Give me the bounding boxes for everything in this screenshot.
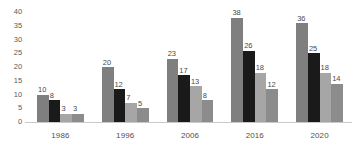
bar-value-label: 14	[332, 75, 340, 83]
bar-slot: 25	[308, 0, 320, 122]
y-axis-tick-10: 10	[0, 91, 22, 99]
bar-group-inner: 10833	[37, 0, 84, 122]
bar-value-label: 13	[191, 78, 199, 86]
bar-slot: 38	[231, 0, 243, 122]
bar-slot: 12	[266, 0, 278, 122]
y-axis-tick-15: 15	[0, 77, 22, 85]
bar-value-label: 3	[73, 105, 77, 113]
bar-slot: 17	[178, 0, 190, 122]
bar-group-1986: 10833	[28, 0, 93, 122]
bar-slot: 10	[37, 0, 49, 122]
bar-series-2-1996[interactable]: 12	[114, 89, 126, 122]
bar-slot: 8	[202, 0, 214, 122]
x-axis-tick-2006: 2006	[158, 128, 223, 144]
bar-series-1-1996[interactable]: 20	[102, 67, 114, 122]
bar-value-label: 26	[244, 42, 252, 50]
bar-value-label: 18	[256, 64, 264, 72]
bar-slot: 13	[190, 0, 202, 122]
x-axis: 19861996200620162020	[28, 128, 352, 144]
bar-value-label: 25	[309, 45, 317, 53]
bar-series-1-2016[interactable]: 38	[231, 18, 243, 123]
bar-series-4-1996[interactable]: 5	[137, 108, 149, 122]
y-axis-tick-5: 5	[0, 104, 22, 112]
bar-group-2006: 2317138	[158, 0, 223, 122]
bar-group-2016: 38261812	[222, 0, 287, 122]
bar-slot: 3	[72, 0, 84, 122]
bar-series-2-2016[interactable]: 26	[243, 51, 255, 123]
bar-series-4-1986[interactable]: 3	[72, 114, 84, 122]
y-axis-tick-35: 35	[0, 22, 22, 30]
x-axis-tick-1986: 1986	[28, 128, 93, 144]
bar-slot: 3	[60, 0, 72, 122]
y-axis-tick-40: 40	[0, 8, 22, 16]
bar-value-label: 12	[115, 81, 123, 89]
bar-value-label: 8	[50, 92, 54, 100]
bar-series-4-2016[interactable]: 12	[266, 89, 278, 122]
bar-group-2020: 36251814	[287, 0, 352, 122]
bar-slot: 20	[102, 0, 114, 122]
bar-value-label: 17	[179, 67, 187, 75]
bar-slot: 26	[243, 0, 255, 122]
bar-value-label: 36	[297, 15, 305, 23]
bar-slot: 36	[296, 0, 308, 122]
bar-series-1-1986[interactable]: 10	[37, 95, 49, 123]
bar-value-label: 23	[168, 50, 176, 58]
bar-series-3-1996[interactable]: 7	[125, 103, 137, 122]
bar-slot: 8	[49, 0, 61, 122]
y-axis: 0510152025303540	[0, 0, 26, 147]
x-axis-tick-1996: 1996	[93, 128, 158, 144]
y-axis-tick-30: 30	[0, 36, 22, 44]
bar-slot: 12	[114, 0, 126, 122]
bar-group-inner: 38261812	[231, 0, 278, 122]
y-axis-tick-0: 0	[0, 118, 22, 126]
bar-slot: 14	[331, 0, 343, 122]
x-axis-line	[25, 122, 352, 123]
bar-value-label: 18	[321, 64, 329, 72]
bar-slot: 18	[320, 0, 332, 122]
bar-slot: 23	[167, 0, 179, 122]
bar-series-2-1986[interactable]: 8	[49, 100, 61, 122]
bar-series-4-2006[interactable]: 8	[202, 100, 214, 122]
bar-slot: 18	[255, 0, 267, 122]
bar-value-label: 38	[232, 9, 240, 17]
bar-group-1996: 201275	[93, 0, 158, 122]
x-axis-tick-2016: 2016	[222, 128, 287, 144]
bar-slot: 7	[125, 0, 137, 122]
bar-groups: 1083320127523171383826181236251814	[28, 0, 352, 122]
bar-series-2-2006[interactable]: 17	[178, 75, 190, 122]
bar-series-3-2006[interactable]: 13	[190, 86, 202, 122]
y-axis-tick-25: 25	[0, 49, 22, 57]
bar-group-inner: 36251814	[296, 0, 343, 122]
bar-value-label: 8	[203, 92, 207, 100]
bar-group-inner: 201275	[102, 0, 149, 122]
bar-series-3-1986[interactable]: 3	[60, 114, 72, 122]
bar-value-label: 3	[61, 105, 65, 113]
bar-group-inner: 2317138	[167, 0, 214, 122]
bar-value-label: 12	[267, 81, 275, 89]
bar-value-label: 20	[103, 59, 111, 67]
y-axis-tick-20: 20	[0, 63, 22, 71]
bar-series-3-2020[interactable]: 18	[320, 73, 332, 123]
bar-series-3-2016[interactable]: 18	[255, 73, 267, 123]
bar-value-label: 10	[38, 86, 46, 94]
bar-series-4-2020[interactable]: 14	[331, 84, 343, 123]
bar-slot: 5	[137, 0, 149, 122]
bar-chart: 0510152025303540 10833201275231713838261…	[0, 0, 356, 147]
bar-value-label: 7	[126, 94, 130, 102]
bar-series-1-2020[interactable]: 36	[296, 23, 308, 122]
x-axis-tick-2020: 2020	[287, 128, 352, 144]
bar-series-1-2006[interactable]: 23	[167, 59, 179, 122]
bar-series-2-2020[interactable]: 25	[308, 53, 320, 122]
bar-value-label: 5	[138, 100, 142, 108]
